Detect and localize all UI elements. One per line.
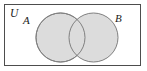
set-b-label: B <box>115 12 122 24</box>
set-a-label: A <box>22 14 30 26</box>
venn-diagram-canvas: U A B <box>0 0 147 71</box>
universal-set-label: U <box>10 7 19 19</box>
set-b-circle <box>69 13 118 62</box>
venn-diagram-figure: U A B <box>0 0 147 71</box>
